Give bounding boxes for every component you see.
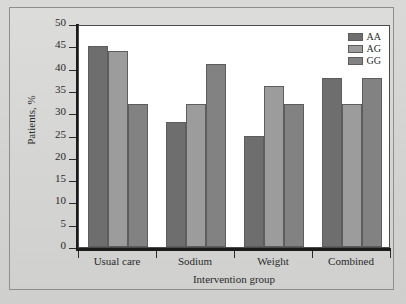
x-category-label-sodium: Sodium (156, 255, 234, 267)
y-tick-label: 40 (55, 62, 66, 73)
y-tick-label: 15 (55, 173, 66, 184)
plot-area: AAAGGG (78, 25, 390, 248)
y-tick-mark (69, 137, 76, 138)
bar-ag-sodium (186, 104, 206, 247)
x-category-label-weight: Weight (234, 255, 312, 267)
legend-swatch-aa (348, 33, 363, 41)
y-tick-label: 35 (55, 84, 66, 95)
y-tick-label: 25 (55, 129, 66, 140)
bar-gg-sodium (206, 64, 226, 247)
y-tick-mark (69, 25, 76, 26)
y-axis-title: Patients, % (25, 65, 37, 175)
legend-swatch-gg (348, 57, 363, 65)
legend-item-ag: AG (348, 44, 381, 54)
figure-surface: 05101520253035404550 Patients, % AAAGGG … (0, 0, 406, 304)
bars-layer (79, 26, 389, 247)
y-tick-mark (69, 114, 76, 115)
y-tick-mark (69, 181, 76, 182)
bar-gg-usual-care (128, 104, 148, 247)
x-category-label-usual-care: Usual care (78, 255, 156, 267)
bar-gg-combined (362, 78, 382, 247)
bar-group (166, 26, 226, 247)
y-tick-label: 20 (55, 151, 66, 162)
bar-aa-weight (244, 136, 264, 248)
x-axis-title: Intervention group (78, 273, 390, 285)
y-tick-mark (69, 248, 76, 249)
legend-label-ag: AG (367, 44, 381, 54)
bar-aa-combined (322, 78, 342, 247)
x-tick-mark (390, 251, 391, 258)
y-tick-mark (69, 203, 76, 204)
legend-item-aa: AA (348, 32, 381, 42)
bar-gg-weight (284, 104, 304, 247)
bar-ag-weight (264, 86, 284, 247)
y-tick-mark (69, 159, 76, 160)
legend-label-gg: GG (367, 56, 381, 66)
y-tick-label: 50 (55, 17, 66, 28)
bar-ag-combined (342, 104, 362, 247)
y-tick-label: 45 (55, 39, 66, 50)
y-tick-label: 10 (55, 195, 66, 206)
bar-ag-usual-care (108, 51, 128, 247)
bar-aa-usual-care (88, 46, 108, 247)
x-category-label-combined: Combined (312, 255, 390, 267)
chart-legend: AAAGGG (348, 32, 381, 66)
legend-swatch-ag (348, 45, 363, 53)
y-tick-mark (69, 226, 76, 227)
legend-item-gg: GG (348, 56, 381, 66)
legend-label-aa: AA (367, 32, 381, 42)
y-tick-label: 30 (55, 106, 66, 117)
bar-aa-sodium (166, 122, 186, 247)
figure-frame: 05101520253035404550 Patients, % AAAGGG … (9, 7, 394, 290)
y-tick-label: 0 (61, 240, 67, 251)
bar-group (244, 26, 304, 247)
y-tick-mark (69, 47, 76, 48)
y-tick-label: 5 (61, 218, 67, 229)
y-tick-mark (69, 92, 76, 93)
bar-group (88, 26, 148, 247)
y-tick-mark (69, 70, 76, 71)
